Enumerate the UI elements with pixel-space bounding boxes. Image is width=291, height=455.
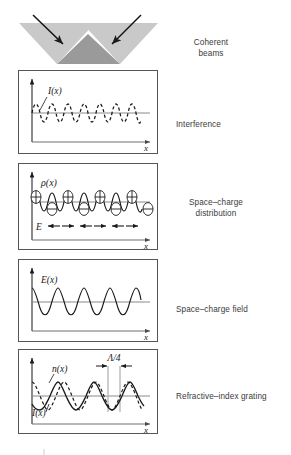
negative-charge-marker: [79, 203, 89, 216]
coherent-beams-group: [19, 15, 158, 64]
panel2-field-label: E: [35, 222, 42, 232]
panel-refractive-index-grating: Λ/4 n(x) I(x) x: [19, 350, 158, 436]
label-space-charge-distribution: Space–charge distribution: [176, 198, 256, 219]
panel-interference: I(x) x: [19, 71, 158, 154]
panel-space-charge-distribution: ρ(x) E x: [19, 164, 158, 252]
label-interference: Interference: [176, 120, 266, 131]
panel2-curve-label: ρ(x): [40, 177, 58, 189]
positive-charge-marker: [95, 191, 105, 204]
panel3-curve-label: E(x): [40, 275, 57, 286]
panel4-curve-label-n: n(x): [52, 364, 67, 375]
panel4-x-axis-label: x: [143, 425, 148, 435]
panel4-curve-label-i: I(x): [31, 408, 46, 419]
label-coherent-beams: Coherent beams: [176, 38, 246, 59]
phase-shift-label: Λ/4: [106, 353, 120, 363]
positive-charge-marker: [127, 191, 137, 204]
negative-charge-marker: [111, 203, 121, 216]
panel-space-charge-field: E(x) x: [19, 260, 158, 343]
negative-charge-marker: [47, 203, 57, 216]
photorefractive-grating-figure: I(x) x: [0, 0, 291, 455]
positive-charge-marker: [63, 191, 73, 204]
panel3-x-axis-label: x: [143, 332, 148, 342]
positive-charge-marker: [31, 191, 41, 204]
negative-charge-marker: [143, 203, 153, 216]
panel2-x-axis-label: x: [143, 241, 148, 251]
panel1-curve-label: I(x): [47, 86, 62, 97]
label-space-charge-field: Space–charge field: [176, 305, 276, 316]
panel1-x-axis-label: x: [143, 143, 148, 153]
label-refractive-index-grating: Refractive–index grating: [176, 392, 286, 403]
